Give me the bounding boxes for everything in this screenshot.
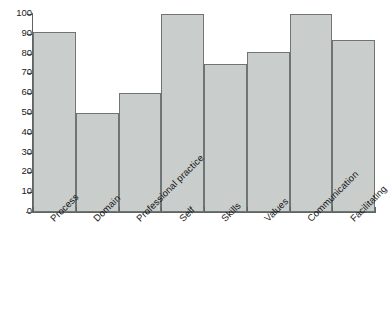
x-tick-mark xyxy=(119,207,120,213)
y-tick-label: 70 xyxy=(8,67,32,77)
bar-chart: 0102030405060708090100 ProcessDomainProf… xyxy=(0,0,388,309)
x-tick-mark xyxy=(332,207,333,213)
bar-communication xyxy=(290,14,333,212)
y-tick-label: 100 xyxy=(8,8,32,18)
y-tick-label: 10 xyxy=(8,186,32,196)
y-tick-label: 50 xyxy=(8,107,32,117)
bar-process xyxy=(33,32,76,212)
y-tick-label: 80 xyxy=(8,48,32,58)
bar-values xyxy=(247,52,290,212)
x-tick-mark xyxy=(204,207,205,213)
y-tick-label: 40 xyxy=(8,127,32,137)
x-tick-mark xyxy=(33,207,34,213)
plot-area xyxy=(33,14,375,212)
bar-skills xyxy=(204,64,247,213)
x-tick-mark xyxy=(76,207,77,213)
x-tick-mark xyxy=(375,207,376,213)
y-tick-label: 60 xyxy=(8,87,32,97)
y-tick-label: 30 xyxy=(8,147,32,157)
y-tick-label: 20 xyxy=(8,166,32,176)
x-tick-mark xyxy=(290,207,291,213)
x-tick-mark xyxy=(161,207,162,213)
y-tick-label: 90 xyxy=(8,28,32,38)
x-tick-mark xyxy=(247,207,248,213)
y-tick-label: 0 xyxy=(8,206,32,216)
